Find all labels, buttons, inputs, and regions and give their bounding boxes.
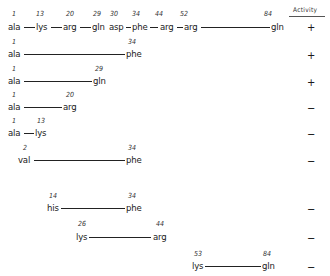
residue-name: phe (132, 22, 148, 32)
bond-line (126, 27, 131, 28)
bond-line (201, 27, 270, 28)
residue-name: gln (271, 22, 284, 32)
residue-name: arg (184, 22, 197, 32)
residue-number: 44 (155, 11, 163, 18)
fragment-line (24, 81, 92, 82)
residue-number: 84 (264, 11, 272, 18)
fragment-line (89, 237, 151, 238)
activity-value: − (307, 233, 315, 244)
activity-header-rule (289, 16, 325, 17)
residue-number: 30 (110, 11, 118, 18)
start-residue: ala (8, 76, 20, 86)
activity-value: + (307, 77, 315, 88)
start-number: 26 (78, 221, 86, 228)
bond-line (177, 27, 183, 28)
residue-number: 29 (93, 11, 101, 18)
residue-name: asp (109, 22, 124, 32)
end-number: 34 (128, 193, 136, 200)
end-residue: phe (126, 203, 142, 213)
residue-number: 13 (36, 11, 44, 18)
fragment-line (24, 107, 62, 108)
end-number: 13 (37, 118, 45, 125)
end-residue: phe (126, 49, 142, 59)
fragment-line (61, 208, 125, 209)
end-residue: arg (153, 232, 166, 242)
bond-line (80, 27, 91, 28)
start-number: 1 (12, 118, 16, 125)
end-residue: gln (93, 76, 106, 86)
residue-name: ala (8, 22, 20, 32)
activity-value: − (307, 204, 315, 215)
bond-line (51, 27, 62, 28)
start-number: 53 (194, 251, 202, 258)
start-number: 1 (12, 92, 16, 99)
end-number: 34 (128, 39, 136, 46)
fragment-line (24, 54, 125, 55)
end-residue: gln (262, 261, 275, 271)
activity-value: − (307, 129, 315, 140)
activity-value: − (307, 262, 315, 273)
activity-value: − (307, 103, 315, 114)
start-residue: val (18, 155, 30, 165)
start-residue: lys (76, 232, 87, 242)
start-number: 2 (23, 145, 27, 152)
bond-line (150, 27, 158, 28)
start-residue: ala (8, 102, 20, 112)
residue-name: gln (92, 22, 105, 32)
start-number: 14 (49, 193, 57, 200)
residue-number: 20 (66, 11, 74, 18)
activity-value: + (307, 50, 315, 61)
activity-value: + (307, 22, 315, 33)
end-number: 20 (66, 92, 74, 99)
residue-name: arg (63, 22, 76, 32)
end-residue: lys (35, 128, 46, 138)
end-residue: phe (126, 155, 142, 165)
end-number: 29 (95, 66, 103, 73)
start-number: 1 (12, 66, 16, 73)
residue-name: lys (36, 22, 47, 32)
residue-number: 1 (12, 11, 16, 18)
residue-number: 52 (180, 11, 188, 18)
activity-value: − (307, 156, 315, 167)
bond-line (24, 27, 35, 28)
start-number: 1 (12, 39, 16, 46)
start-residue: his (47, 203, 59, 213)
end-residue: arg (63, 102, 76, 112)
activity-header: Activity (293, 6, 317, 14)
end-number: 44 (156, 221, 164, 228)
fragment-line (34, 160, 125, 161)
start-residue: lys (192, 261, 203, 271)
fragment-line (205, 266, 261, 267)
start-residue: ala (8, 128, 20, 138)
residue-name: arg (160, 22, 173, 32)
residue-number: 34 (132, 11, 140, 18)
fragment-line (24, 133, 34, 134)
end-number: 84 (263, 251, 271, 258)
end-number: 34 (128, 145, 136, 152)
start-residue: ala (8, 49, 20, 59)
